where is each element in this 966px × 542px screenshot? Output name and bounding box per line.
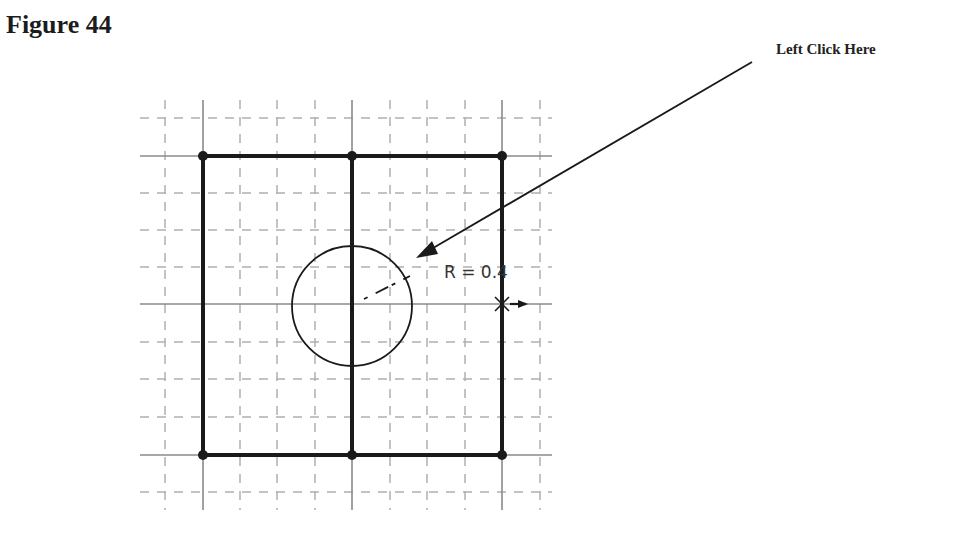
radius-dimension-label[interactable]: R = 0.4 [444,262,508,282]
radius-line [364,276,410,299]
callout-arrow [416,62,752,258]
sketch-canvas[interactable]: R = 0.4 [0,0,966,542]
rectangle-sketch[interactable] [203,156,502,455]
